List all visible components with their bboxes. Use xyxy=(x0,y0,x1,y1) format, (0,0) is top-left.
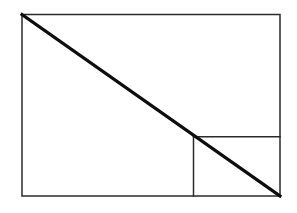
geometric-figure xyxy=(0,0,297,213)
figure-canvas xyxy=(0,0,297,213)
main-diagonal xyxy=(22,15,280,197)
